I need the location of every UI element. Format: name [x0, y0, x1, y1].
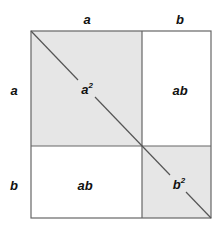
b-squared-label: b2	[173, 177, 185, 192]
side-label-a: a	[10, 83, 17, 98]
diagram-canvas	[0, 0, 222, 228]
side-label-b: b	[10, 178, 18, 193]
top-label-b: b	[176, 12, 184, 27]
top-label-a: a	[83, 12, 90, 27]
ab-bottom-left-label: ab	[77, 178, 92, 193]
ab-top-right-label: ab	[172, 83, 187, 98]
a-squared-label: a2	[81, 82, 93, 97]
